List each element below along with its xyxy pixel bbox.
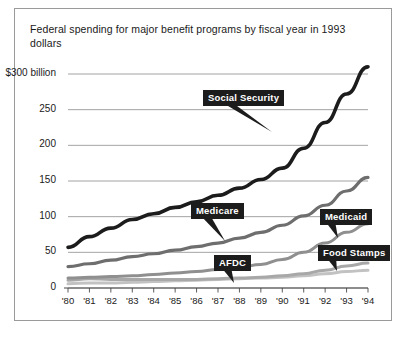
chart-frame	[14, 8, 392, 321]
series-callout-food-stamps: Food Stamps	[318, 245, 390, 261]
series-callout-medicare: Medicare	[191, 203, 244, 219]
y-axis-tick-label: 150	[0, 174, 56, 185]
y-axis-tick-label: 0	[0, 281, 56, 292]
y-axis-tick-label: $300 billion	[0, 67, 56, 78]
series-callout-afdc: AFDC	[214, 255, 251, 271]
y-axis-tick-label: 50	[0, 245, 56, 256]
y-axis-tick-label: 250	[0, 103, 56, 114]
y-axis-tick-label: 200	[0, 138, 56, 149]
series-callout-social-security: Social Security	[203, 90, 284, 106]
x-axis-tick-label: '94	[354, 295, 382, 306]
chart-title: Federal spending for major benefit progr…	[30, 22, 360, 50]
y-axis-tick-label: 100	[0, 210, 56, 221]
series-callout-medicaid: Medicaid	[320, 209, 372, 225]
